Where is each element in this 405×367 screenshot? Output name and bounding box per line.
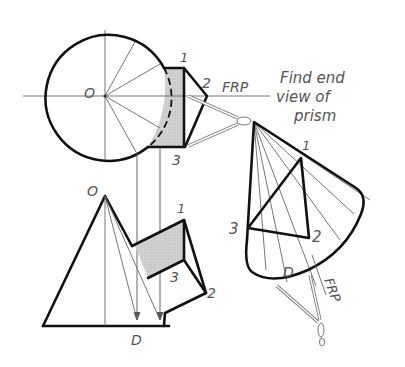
- label-2-front: 2: [207, 285, 216, 301]
- shaded-face-top: [148, 68, 184, 147]
- label-frp-aux: FRP: [321, 276, 343, 304]
- label-1-top: 1: [180, 50, 188, 65]
- label-o-front: O: [87, 183, 98, 199]
- label-d-front: D: [131, 332, 142, 348]
- label-frp-top: FRP: [222, 79, 249, 95]
- svg-text:view of: view of: [276, 88, 332, 106]
- prism-end-view: [248, 158, 309, 238]
- label-d-aux: D: [283, 264, 294, 280]
- label-3-front: 3: [170, 269, 179, 285]
- top-view: O 1 2 3 FRP: [23, 30, 270, 168]
- label-2-top: 2: [202, 75, 211, 91]
- label-3-aux: 3: [229, 220, 239, 238]
- instruction-text: Find end view of prism: [276, 69, 345, 125]
- label-2-aux: 2: [312, 228, 322, 246]
- front-view: O 1 3 2 D: [43, 183, 216, 348]
- svg-text:Find end: Find end: [280, 69, 345, 87]
- view-direction-arrow: [237, 117, 251, 125]
- cone-elements-aux: [254, 122, 370, 286]
- cone-front-outline: [43, 196, 132, 326]
- label-1-front: 1: [177, 201, 185, 216]
- label-o-top: O: [84, 85, 95, 101]
- svg-text:prism: prism: [293, 107, 336, 125]
- center-point-o: [103, 94, 106, 97]
- label-1-aux: 1: [302, 138, 310, 153]
- drawing-canvas: O 1 2 3 FRP Find end view of prism: [0, 0, 405, 367]
- projection-lines-aux: [277, 275, 325, 346]
- view-direction-arrow-aux: [318, 323, 324, 337]
- label-3-top: 3: [172, 152, 181, 168]
- auxiliary-view: 1 2 3 D FRP: [229, 122, 370, 346]
